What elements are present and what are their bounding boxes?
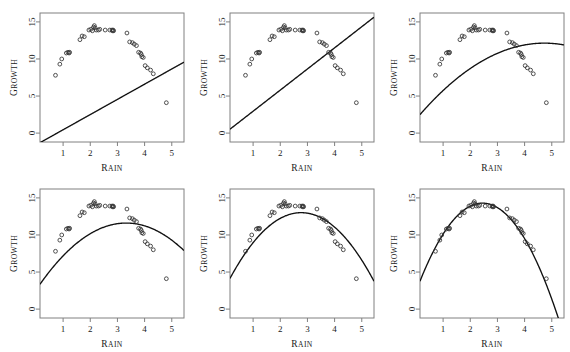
data-point xyxy=(149,244,153,248)
data-point xyxy=(164,101,168,105)
data-point xyxy=(125,207,129,211)
y-axis-title: GROWTH xyxy=(199,235,209,272)
data-point xyxy=(531,248,535,252)
fitted-curve xyxy=(420,43,564,114)
data-points xyxy=(434,200,549,281)
data-point xyxy=(244,73,248,77)
data-point xyxy=(440,57,444,61)
y-tick-label: 10 xyxy=(217,230,227,240)
data-point xyxy=(143,64,147,68)
x-axis-title: RAIN xyxy=(101,163,123,173)
x-tick-label: 4 xyxy=(332,148,337,158)
x-axis-title: RAIN xyxy=(101,339,123,349)
y-tick-label: 15 xyxy=(407,193,417,203)
y-tick-label: 0 xyxy=(217,130,227,135)
data-point xyxy=(164,277,168,281)
data-point xyxy=(523,64,527,68)
data-point xyxy=(434,73,438,77)
data-point xyxy=(103,204,107,208)
y-tick-label: 15 xyxy=(27,193,37,203)
y-tick-label: 5 xyxy=(27,93,37,98)
data-point xyxy=(531,72,535,76)
panel-quadratic-mid: 12345051015RAINGROWTH xyxy=(190,176,380,352)
data-points xyxy=(54,24,169,105)
x-tick-label: 1 xyxy=(61,324,66,334)
data-points xyxy=(244,24,359,105)
data-points xyxy=(434,24,549,105)
data-points xyxy=(54,200,169,281)
data-point xyxy=(505,31,509,35)
data-point xyxy=(250,57,254,61)
y-tick-label: 5 xyxy=(217,93,227,98)
x-axis-title: RAIN xyxy=(481,339,503,349)
y-axis-title: GROWTH xyxy=(389,59,399,96)
y-tick-label: 15 xyxy=(217,193,227,203)
data-point xyxy=(58,62,62,66)
x-tick-label: 4 xyxy=(522,148,527,158)
x-tick-label: 2 xyxy=(278,324,283,334)
x-tick-label: 1 xyxy=(441,324,446,334)
x-axis-title: RAIN xyxy=(291,339,313,349)
panel-linear-steep: 12345051015RAINGROWTH xyxy=(0,0,190,176)
y-axis-title: GROWTH xyxy=(9,235,19,272)
data-point xyxy=(151,72,155,76)
data-point xyxy=(339,68,343,72)
x-tick-label: 2 xyxy=(278,148,283,158)
data-point xyxy=(268,214,272,218)
y-tick-label: 5 xyxy=(217,269,227,274)
data-point xyxy=(354,277,358,281)
data-point xyxy=(339,244,343,248)
x-tick-label: 3 xyxy=(115,324,120,334)
x-tick-label: 2 xyxy=(468,324,473,334)
x-tick-label: 4 xyxy=(142,324,147,334)
x-tick-label: 1 xyxy=(441,148,446,158)
data-point xyxy=(125,31,129,35)
data-point xyxy=(544,277,548,281)
data-point xyxy=(268,38,272,42)
data-point xyxy=(143,240,147,244)
x-tick-label: 3 xyxy=(115,148,120,158)
data-point xyxy=(293,28,297,32)
data-point xyxy=(438,62,442,66)
data-point xyxy=(333,240,337,244)
panel-quadratic-flat: 12345051015RAINGROWTH xyxy=(380,0,570,176)
data-point xyxy=(250,233,254,237)
y-tick-label: 0 xyxy=(407,130,417,135)
x-tick-label: 5 xyxy=(550,148,555,158)
data-point xyxy=(151,248,155,252)
x-tick-label: 3 xyxy=(495,324,500,334)
data-point xyxy=(341,248,345,252)
y-tick-label: 0 xyxy=(217,306,227,311)
data-point xyxy=(54,73,58,77)
x-tick-label: 5 xyxy=(360,324,365,334)
data-point xyxy=(354,101,358,105)
y-tick-label: 0 xyxy=(27,306,37,311)
data-point xyxy=(483,204,487,208)
y-tick-label: 10 xyxy=(27,54,37,64)
data-point xyxy=(58,238,62,242)
y-axis-title: GROWTH xyxy=(389,235,399,272)
x-tick-label: 1 xyxy=(251,324,256,334)
data-points xyxy=(244,200,359,281)
data-point xyxy=(60,57,64,61)
panel-quadratic-low: 12345051015RAINGROWTH xyxy=(0,176,190,352)
x-tick-label: 5 xyxy=(170,324,175,334)
x-tick-label: 3 xyxy=(305,324,310,334)
fitted-curve xyxy=(230,213,374,282)
y-tick-label: 15 xyxy=(217,17,227,27)
fitted-curve xyxy=(40,62,184,143)
data-point xyxy=(544,101,548,105)
y-tick-label: 10 xyxy=(217,54,227,64)
data-point xyxy=(529,68,533,72)
panel-grid: 12345051015RAINGROWTH12345051015RAINGROW… xyxy=(0,0,570,352)
data-point xyxy=(54,249,58,253)
y-tick-label: 5 xyxy=(27,269,37,274)
data-point xyxy=(505,207,509,211)
fitted-curve xyxy=(230,17,374,129)
x-tick-label: 3 xyxy=(495,148,500,158)
x-tick-label: 2 xyxy=(88,148,93,158)
y-tick-label: 0 xyxy=(407,306,417,311)
x-tick-label: 4 xyxy=(522,324,527,334)
data-point xyxy=(293,204,297,208)
data-point xyxy=(248,62,252,66)
